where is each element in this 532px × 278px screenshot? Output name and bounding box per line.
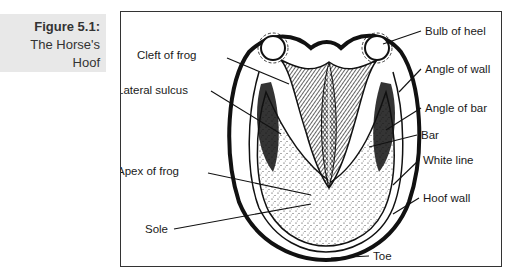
- hoof-diagram: Cleft of frog Lateral sulcus Apex of fro…: [121, 12, 503, 268]
- figure-caption: Figure 5.1: The Horse's Hoof: [0, 14, 106, 72]
- figure-title-line1: The Horse's: [0, 36, 100, 54]
- figure-number: Figure 5.1:: [0, 18, 100, 36]
- figure-title-line2: Hoof: [0, 54, 100, 72]
- diagram-frame: Cleft of frog Lateral sulcus Apex of fro…: [120, 11, 502, 267]
- label-bulb-of-heel: Bulb of heel: [425, 25, 486, 37]
- label-sole: Sole: [145, 223, 168, 235]
- label-angle-of-wall: Angle of wall: [425, 63, 490, 75]
- label-white-line: White line: [423, 154, 474, 166]
- label-toe: Toe: [373, 250, 392, 262]
- label-cleft-of-frog: Cleft of frog: [137, 49, 196, 61]
- label-bar: Bar: [421, 129, 439, 141]
- label-hoof-wall: Hoof wall: [423, 192, 470, 204]
- label-apex-of-frog: Apex of frog: [121, 165, 179, 177]
- label-lateral-sulcus: Lateral sulcus: [121, 84, 188, 96]
- label-angle-of-bar: Angle of bar: [425, 102, 487, 114]
- hoof-drawing: [229, 33, 419, 260]
